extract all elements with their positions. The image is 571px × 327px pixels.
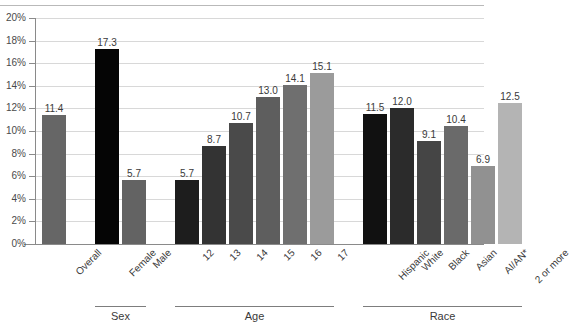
bar-value-label: 11.4 xyxy=(45,103,64,115)
y-axis-tick-label: 14% xyxy=(0,81,26,91)
category-label: 16 xyxy=(308,247,324,263)
category-label: 17 xyxy=(335,247,351,263)
y-axis-tick-label: 16% xyxy=(0,58,26,68)
bar-value-label: 14.1 xyxy=(285,73,304,85)
bar: 6.9 xyxy=(471,166,495,244)
category-label: 15 xyxy=(281,247,297,263)
x-axis-line xyxy=(24,244,484,245)
category-label: 12 xyxy=(200,247,216,263)
bar: 11.5 xyxy=(363,114,387,244)
category-label: 14 xyxy=(254,247,270,263)
y-axis-tick-label: 18% xyxy=(0,36,26,46)
bar: 17.3 xyxy=(95,49,119,244)
y-axis-tick-label: 12% xyxy=(0,103,26,113)
bar: 8.7 xyxy=(202,146,226,244)
category-label: Overall xyxy=(73,247,103,277)
group-label: Age xyxy=(175,310,334,322)
category-label: 13 xyxy=(227,247,243,263)
bar-value-label: 17.3 xyxy=(97,37,116,49)
group-label: Race xyxy=(363,310,522,322)
bar-value-label: 10.7 xyxy=(231,111,250,123)
y-axis-tick-label: 6% xyxy=(0,171,26,181)
bars-layer: 11.417.35.75.78.710.713.014.115.111.512.… xyxy=(35,18,484,244)
bar: 14.1 xyxy=(283,85,307,244)
bar-value-label: 12.0 xyxy=(392,96,411,108)
bar-value-label: 6.9 xyxy=(476,154,490,166)
bar: 9.1 xyxy=(417,141,441,244)
category-label: 2 or more xyxy=(533,247,571,285)
y-axis-tick-label: 10% xyxy=(0,126,26,136)
group-bracket-rule xyxy=(175,306,334,307)
bar: 5.7 xyxy=(175,180,199,244)
bar-value-label: 5.7 xyxy=(127,168,141,180)
bar-value-label: 5.7 xyxy=(180,168,194,180)
bar-value-label: 13.0 xyxy=(258,85,277,97)
category-label: Asian xyxy=(473,247,498,272)
group-bracket-rule xyxy=(363,306,522,307)
bar: 10.7 xyxy=(229,123,253,244)
bar-value-label: 12.5 xyxy=(500,91,519,103)
bar: 13.0 xyxy=(256,97,280,244)
group-label: Sex xyxy=(95,310,146,322)
bar-value-label: 11.5 xyxy=(366,102,385,114)
y-axis-tick-label: 2% xyxy=(0,216,26,226)
category-label: Black xyxy=(446,247,471,272)
bar: 5.7 xyxy=(122,180,146,244)
bar-value-label: 15.1 xyxy=(312,61,331,73)
bar-value-label: 8.7 xyxy=(207,134,221,146)
group-bracket-rule xyxy=(95,306,146,307)
bar: 15.1 xyxy=(310,73,334,244)
bar: 12.5 xyxy=(498,103,522,244)
bar: 12.0 xyxy=(390,108,414,244)
bar: 10.4 xyxy=(444,126,468,244)
y-axis-tick-mark xyxy=(29,244,35,245)
y-axis-tick-label: 0% xyxy=(0,239,26,249)
bar-value-label: 10.4 xyxy=(446,114,465,126)
y-axis-tick-label: 4% xyxy=(0,194,26,204)
bar: 11.4 xyxy=(42,115,66,244)
bar-value-label: 9.1 xyxy=(422,129,436,141)
top-divider-rule xyxy=(0,5,484,6)
y-axis-tick-label: 8% xyxy=(0,149,26,159)
y-axis-tick-label: 20% xyxy=(0,13,26,23)
category-label: AI/AN* xyxy=(502,247,531,276)
